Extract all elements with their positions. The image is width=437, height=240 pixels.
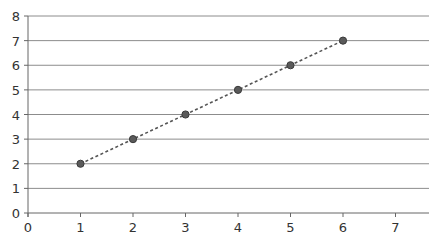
- y-tick-label: 2: [12, 157, 20, 172]
- x-tick-label: 7: [391, 220, 399, 235]
- data-point-marker: [234, 86, 241, 93]
- data-point-marker: [129, 136, 136, 143]
- data-point-marker: [339, 37, 346, 44]
- gridlines: [28, 16, 429, 188]
- y-tick-label: 4: [12, 108, 20, 123]
- series-line: [81, 41, 344, 164]
- x-tick-label: 6: [339, 220, 347, 235]
- y-axis-tick-labels: 012345678: [12, 9, 20, 221]
- y-tick-label: 0: [12, 206, 20, 221]
- data-point-marker: [182, 111, 189, 118]
- axes: [24, 16, 429, 217]
- y-tick-label: 5: [12, 83, 20, 98]
- x-tick-label: 4: [234, 220, 242, 235]
- data-point-marker: [287, 62, 294, 69]
- x-tick-label: 1: [76, 220, 84, 235]
- y-tick-label: 3: [12, 132, 20, 147]
- x-tick-label: 3: [181, 220, 189, 235]
- x-tick-label: 2: [129, 220, 137, 235]
- y-tick-label: 6: [12, 58, 20, 73]
- y-tick-label: 8: [12, 9, 20, 24]
- x-tick-label: 0: [24, 220, 32, 235]
- y-tick-label: 1: [12, 181, 20, 196]
- x-tick-label: 5: [286, 220, 294, 235]
- data-series: [77, 37, 347, 167]
- y-tick-label: 7: [12, 34, 20, 49]
- data-point-marker: [77, 160, 84, 167]
- x-axis-tick-labels: 01234567: [24, 220, 400, 235]
- line-chart: 012345678 01234567: [0, 0, 437, 240]
